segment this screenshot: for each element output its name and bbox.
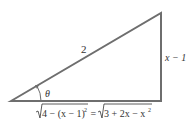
adjacent-side-label: 4 − (x − 1) 2 = 3 + 2x − x 2 — [36, 104, 152, 120]
adjacent-right-exponent: 2 — [148, 107, 151, 113]
adjacent-left-exponent: 2 — [84, 107, 87, 113]
equals-sign: = — [88, 108, 99, 119]
angle-arc — [37, 86, 41, 101]
hypotenuse-label: 2 — [81, 43, 87, 55]
adjacent-right-expr: 3 + 2x − x — [104, 108, 145, 119]
opposite-side-label: x − 1 — [164, 52, 186, 63]
adjacent-left-expr: 4 − (x − 1) — [42, 108, 85, 120]
right-triangle — [11, 13, 161, 101]
triangle-diagram: 2 x − 1 θ 4 − (x − 1) 2 = 3 + 2x − x 2 — [0, 0, 188, 131]
angle-label: θ — [45, 88, 50, 99]
